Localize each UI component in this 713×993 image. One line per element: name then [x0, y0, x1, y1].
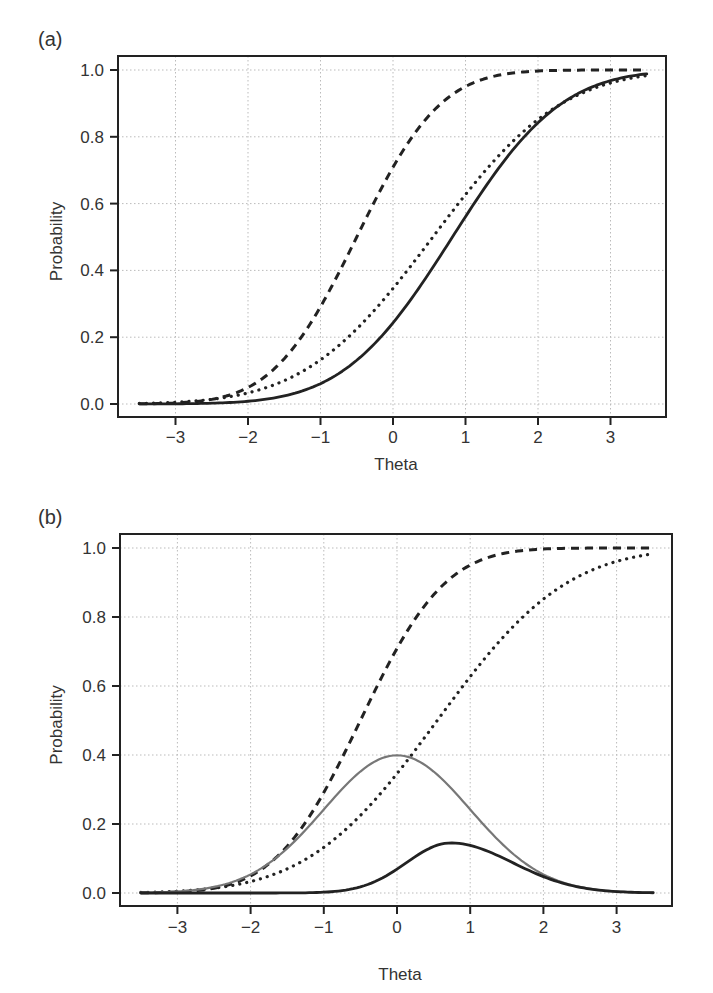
panel-b: (b) 0.00.20.40.60.81.0−3−2−10123ThetaPro…: [0, 480, 713, 993]
x-tick-label: 3: [606, 428, 615, 447]
y-tick-label: 0.0: [82, 884, 106, 903]
y-tick-label: 0.0: [80, 395, 104, 414]
chart-a: 0.00.20.40.60.81.0−3−2−10123ThetaProbabi…: [0, 0, 713, 480]
x-tick-label: 1: [461, 428, 470, 447]
series-group: [141, 548, 653, 893]
y-tick-label: 0.4: [80, 261, 104, 280]
grid: [120, 534, 672, 906]
y-tick-label: 0.6: [80, 195, 104, 214]
y-tick-label: 1.0: [80, 61, 104, 80]
x-tick-label: −2: [241, 918, 260, 937]
y-tick-label: 0.2: [80, 328, 104, 347]
y-axis: 0.00.20.40.60.81.0: [80, 61, 118, 414]
y-tick-label: 0.2: [82, 815, 106, 834]
x-tick-label: −1: [314, 918, 333, 937]
plot-frame: [118, 56, 666, 417]
grid: [118, 56, 666, 417]
x-tick-label: 1: [465, 918, 474, 937]
x-tick-label: 0: [392, 918, 401, 937]
y-tick-label: 1.0: [82, 539, 106, 558]
series-dashed: [141, 548, 653, 893]
x-tick-label: 2: [533, 428, 542, 447]
x-tick-label: 0: [388, 428, 397, 447]
x-axis-title: Theta: [374, 455, 418, 474]
x-tick-label: −3: [168, 918, 187, 937]
x-tick-label: −3: [166, 428, 185, 447]
x-axis: −3−2−10123: [166, 417, 615, 447]
x-axis: −3−2−10123: [168, 906, 622, 937]
y-tick-label: 0.4: [82, 746, 106, 765]
x-tick-label: −1: [311, 428, 330, 447]
y-tick-label: 0.8: [82, 608, 106, 627]
y-axis: 0.00.20.40.60.81.0: [82, 539, 120, 903]
x-tick-label: 3: [612, 918, 621, 937]
chart-b: 0.00.20.40.60.81.0−3−2−10123ThetaProbabi…: [0, 480, 713, 993]
y-tick-label: 0.8: [80, 128, 104, 147]
x-tick-label: 2: [539, 918, 548, 937]
plot-frame: [120, 534, 672, 906]
x-axis-title: Theta: [378, 965, 422, 984]
y-tick-label: 0.6: [82, 677, 106, 696]
panel-a: (a) 0.00.20.40.60.81.0−3−2−10123ThetaPro…: [0, 0, 713, 480]
series-solid: [139, 74, 647, 404]
y-axis-title: Probability: [47, 201, 66, 281]
x-tick-label: −2: [238, 428, 257, 447]
y-axis-title: Probability: [47, 685, 66, 765]
